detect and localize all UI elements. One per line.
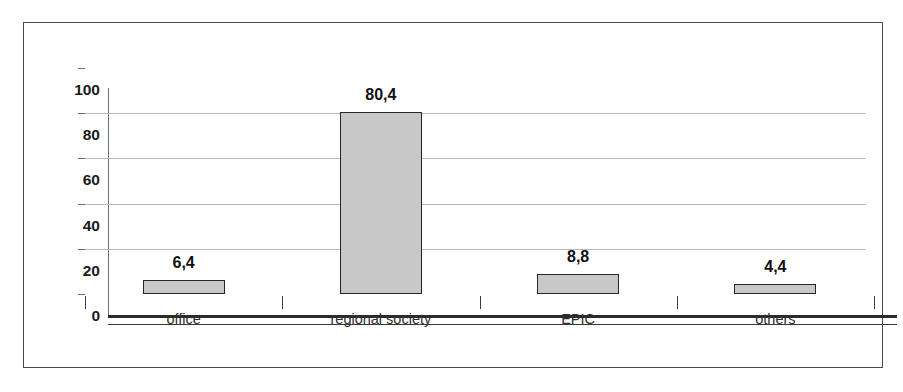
gridline-60: [85, 158, 866, 159]
gridline-40: [85, 204, 866, 205]
chart-frame-border: 020406080100 6,4office80,4regional socie…: [23, 22, 883, 368]
category-tick-1: [282, 296, 283, 309]
y-tick-label-40: 40: [54, 218, 100, 234]
y-tick-mark-0: [78, 294, 85, 295]
bar-value-label-regional-society: 80,4: [321, 87, 441, 103]
y-axis-tick-labels: 020406080100: [48, 23, 100, 392]
bar-chart-figure: 020406080100 6,4office80,4regional socie…: [0, 0, 903, 392]
y-tick-label-80: 80: [54, 127, 100, 143]
y-tick-mark-100: [78, 68, 85, 69]
gridline-80: [85, 113, 866, 114]
bar-others[interactable]: [734, 284, 816, 294]
category-label-regional-society: regional society: [281, 312, 481, 327]
y-tick-mark-40: [78, 204, 85, 205]
category-tick-0: [85, 296, 86, 309]
bar-value-label-others: 4,4: [715, 259, 835, 275]
category-tick-2: [480, 296, 481, 309]
y-tick-mark-80: [78, 113, 85, 114]
category-tick-3: [677, 296, 678, 309]
y-tick-label-100: 100: [54, 82, 100, 98]
category-label-epic: EPIC: [478, 312, 678, 327]
bar-value-label-epic: 8,8: [518, 249, 638, 265]
gridline-100: [85, 68, 866, 69]
category-label-office: office: [84, 312, 284, 327]
y-tick-label-20: 20: [54, 263, 100, 279]
bar-value-label-office: 6,4: [124, 255, 244, 271]
y-tick-mark-60: [78, 158, 85, 159]
gridline-20: [85, 249, 866, 250]
bar-regional-society[interactable]: [340, 112, 422, 294]
y-tick-mark-20: [78, 249, 85, 250]
bar-epic[interactable]: [537, 274, 619, 294]
bar-office[interactable]: [143, 280, 225, 294]
category-label-others: others: [675, 312, 875, 327]
category-tick-end: [874, 296, 875, 309]
y-tick-label-60: 60: [54, 172, 100, 188]
